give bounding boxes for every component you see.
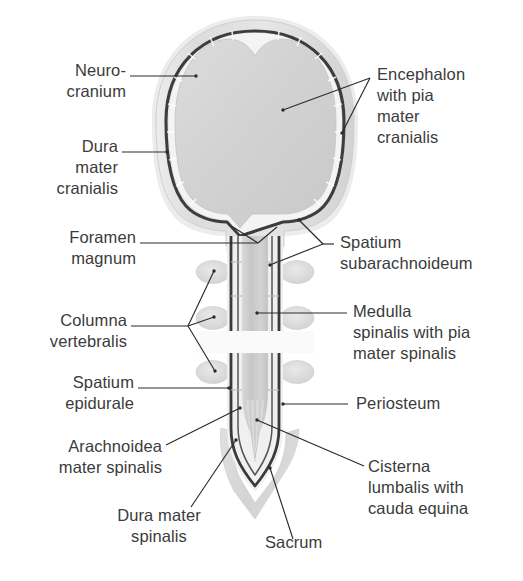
label-dura-mater-spinalis: Dura mater spinalis	[95, 505, 223, 547]
leader-columna-vertebralis	[131, 269, 217, 372]
label-spatium-subarachnoideum: Spatium subarachnoideum	[340, 232, 523, 274]
label-periosteum: Periosteum	[356, 393, 516, 414]
label-arachnoidea-mater-spinalis: Arachnoidea mater spinalis	[0, 436, 162, 478]
label-medulla-spinalis-with-pia-mater-spinalis: Medulla spinalis with pia mater spinalis	[353, 301, 523, 364]
label-cisterna-lumbalis-with-cauda-equina: Cisterna lumbalis with cauda equina	[368, 456, 523, 519]
encephalon	[175, 39, 336, 228]
label-sacrum: Sacrum	[265, 532, 375, 553]
label-dura-mater-cranialis: Dura mater cranialis	[0, 136, 118, 199]
label-neurocranium: Neuro- cranium	[0, 60, 126, 102]
canal-interruption-band	[196, 331, 314, 353]
label-foramen-magnum: Foramen magnum	[0, 227, 136, 269]
label-columna-vertebralis: Columna vertebralis	[0, 310, 127, 352]
leader-periosteum	[281, 402, 348, 405]
leader-spatium-epidurale	[138, 386, 231, 389]
label-encephalon-with-pia-mater-cranialis: Encephalon with pia mater cranialis	[377, 64, 523, 148]
label-spatium-epidurale: Spatium epidurale	[0, 372, 134, 414]
